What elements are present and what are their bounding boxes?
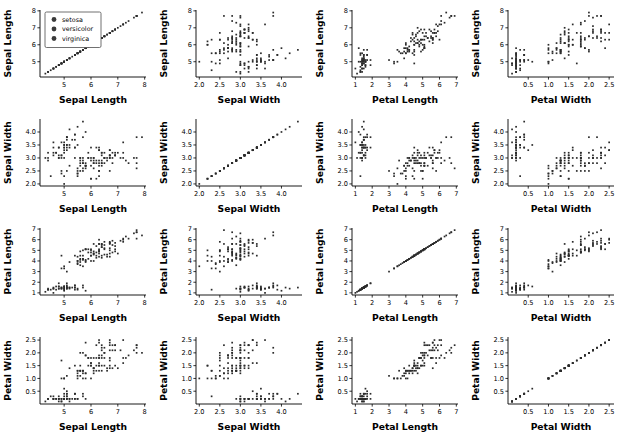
data-point	[77, 378, 79, 380]
data-point	[215, 378, 217, 380]
data-point	[268, 139, 270, 141]
data-point	[363, 54, 365, 56]
panel-sepal_width-vs-sepal_length: 56782.02.53.03.54.0Sepal LengthSepal Wid…	[0, 109, 155, 218]
data-point	[600, 229, 602, 231]
data-point	[128, 20, 130, 22]
x-tick-label: 8	[143, 408, 147, 416]
data-point	[77, 170, 79, 172]
data-point	[432, 155, 434, 157]
data-point	[417, 149, 419, 151]
x-axis-title: Petal Length	[372, 421, 438, 432]
data-point	[114, 29, 116, 31]
data-point	[219, 360, 221, 362]
data-point	[79, 365, 81, 367]
data-point	[429, 155, 431, 157]
data-point	[248, 357, 250, 359]
data-point	[93, 367, 95, 369]
data-point	[366, 134, 368, 136]
data-points	[355, 121, 456, 185]
data-point	[422, 32, 424, 34]
data-point	[240, 367, 242, 369]
data-point	[600, 157, 602, 159]
data-point	[435, 35, 437, 37]
panel-petal_length-vs-sepal_length: 56781234567Sepal LengthPetal Length	[0, 218, 155, 327]
data-point	[90, 157, 92, 159]
data-point	[531, 144, 533, 146]
data-point	[568, 178, 570, 180]
data-point	[227, 355, 229, 357]
data-point	[240, 30, 242, 32]
data-point	[417, 362, 419, 364]
y-tick-label: 8	[188, 7, 192, 15]
data-point	[576, 360, 578, 362]
x-tick-label: 0.5	[523, 190, 534, 198]
data-point	[98, 256, 100, 258]
data-point	[515, 398, 517, 400]
data-point	[560, 257, 562, 259]
data-point	[435, 362, 437, 364]
data-point	[363, 144, 365, 146]
data-point	[252, 285, 254, 287]
data-point	[397, 61, 399, 63]
data-point	[244, 37, 246, 39]
data-point	[572, 44, 574, 46]
data-point	[600, 155, 602, 157]
data-point	[252, 362, 254, 364]
y-tick-label: 3	[32, 268, 36, 276]
data-point	[361, 142, 363, 144]
data-point	[53, 398, 55, 400]
data-point	[223, 260, 225, 262]
data-point	[219, 170, 221, 172]
data-point	[63, 378, 65, 380]
y-tick-label: 2.5	[494, 167, 505, 175]
data-point	[435, 32, 437, 34]
data-point	[588, 152, 590, 154]
data-point	[256, 61, 258, 63]
y-tick-label: 4	[188, 257, 192, 265]
data-point	[393, 63, 395, 65]
data-point	[568, 255, 570, 257]
data-point	[363, 147, 365, 149]
data-point	[413, 147, 415, 149]
data-point	[272, 59, 274, 61]
y-tick-label: 1.5	[494, 362, 505, 370]
data-point	[515, 147, 517, 149]
data-point	[252, 398, 254, 400]
data-point	[101, 246, 103, 248]
data-point	[360, 69, 362, 71]
data-point	[408, 165, 410, 167]
data-point	[604, 47, 606, 49]
y-tick-label: 3	[344, 268, 348, 276]
data-point	[223, 229, 225, 231]
data-point	[248, 255, 250, 257]
data-point	[408, 258, 410, 260]
data-point	[240, 42, 242, 44]
data-point	[432, 367, 434, 369]
data-point	[420, 155, 422, 157]
x-axis-title: Sepal Length	[59, 312, 127, 323]
data-point	[454, 344, 456, 346]
data-point	[211, 52, 213, 54]
x-tick-label: 3.0	[235, 408, 246, 416]
data-point	[422, 157, 424, 159]
data-point	[87, 365, 89, 367]
data-point	[272, 49, 274, 51]
data-point	[207, 178, 209, 180]
data-point	[231, 347, 233, 349]
data-point	[410, 160, 412, 162]
data-point	[370, 64, 372, 66]
data-point	[74, 365, 76, 367]
data-point	[515, 142, 517, 144]
data-point	[85, 248, 87, 250]
data-point	[427, 152, 429, 154]
data-point	[429, 41, 431, 43]
data-point	[523, 134, 525, 136]
data-point	[227, 39, 229, 41]
data-point	[422, 352, 424, 354]
x-tick-label: 4	[404, 408, 408, 416]
data-point	[580, 44, 582, 46]
data-point	[580, 165, 582, 167]
data-point	[235, 257, 237, 259]
data-point	[252, 61, 254, 63]
data-point	[413, 170, 415, 172]
